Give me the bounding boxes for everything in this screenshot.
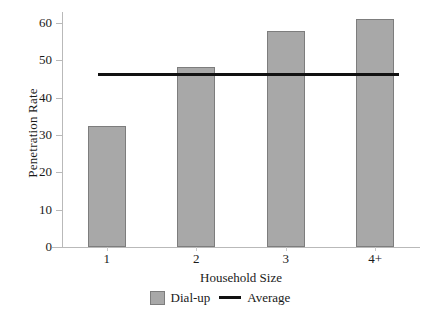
x-axis-tick-label: 1: [77, 251, 137, 267]
y-axis-tick-mark: [56, 60, 62, 61]
legend-item-average: Average: [219, 290, 290, 305]
y-axis-tick-label-wrap: 40: [10, 91, 52, 104]
y-axis-tick-label: 50: [18, 53, 52, 66]
legend-item-dial-up: Dial-up: [150, 290, 211, 305]
y-axis-tick-label: 20: [18, 165, 52, 178]
y-axis-tick-mark: [56, 98, 62, 99]
y-axis-tick-mark: [56, 210, 62, 211]
y-axis-tick-label: 0: [18, 240, 52, 253]
legend-swatch-line-icon: [219, 296, 241, 299]
y-axis-line: [62, 12, 63, 248]
y-axis-tick-label-wrap: 30: [10, 128, 52, 141]
x-axis-tick-label: 3: [256, 251, 316, 267]
legend-swatch-square-icon: [150, 291, 165, 305]
bar-3: [267, 31, 305, 247]
x-axis-title: Household Size: [62, 270, 420, 285]
x-axis-tick-label: 2: [166, 251, 226, 267]
y-axis-tick-mark: [56, 172, 62, 173]
chart-legend: Dial-up Average: [0, 290, 440, 305]
y-axis-tick-mark: [56, 247, 62, 248]
average-reference-line: [98, 73, 399, 76]
legend-label-average: Average: [247, 290, 290, 305]
y-axis-tick-label: 60: [18, 16, 52, 29]
y-axis-tick-label-wrap: 20: [10, 165, 52, 178]
y-axis-tick-mark: [56, 135, 62, 136]
legend-label-dial-up: Dial-up: [171, 290, 211, 305]
y-axis-tick-label-wrap: 0: [10, 240, 52, 253]
y-axis-tick-label: 40: [18, 91, 52, 104]
bar-2: [177, 67, 215, 247]
chart-container: Penetration Rate 0102030405060 1234+ Hou…: [0, 0, 440, 317]
y-axis-tick-mark: [56, 23, 62, 24]
y-axis-tick-label: 30: [18, 128, 52, 141]
y-axis-tick-label-wrap: 60: [10, 16, 52, 29]
y-axis-tick-label: 10: [18, 203, 52, 216]
y-axis-tick-label-wrap: 10: [10, 203, 52, 216]
y-axis-tick-label-wrap: 50: [10, 53, 52, 66]
bar-4plus: [356, 19, 394, 247]
x-axis-tick-label: 4+: [345, 251, 405, 267]
bar-1: [88, 126, 126, 247]
